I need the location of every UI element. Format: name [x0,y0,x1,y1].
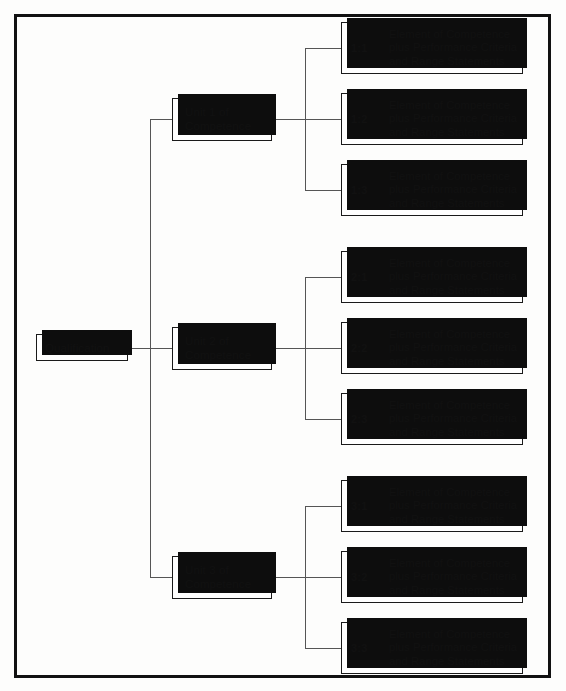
element-node-3-1-line1: Element of Competence [389,486,510,498]
unit-node-1-label-line2: Competence [185,120,271,134]
unit-node-3[interactable]: Unit 3 of Competence [172,556,272,599]
element-node-3-2[interactable]: 3:2 Element of Competence plus Performan… [341,551,523,603]
connector-unit-3-to-element-3-1 [305,506,342,507]
unit-node-3-label-line2: Competence [185,578,271,592]
unit-node-1-label-line1: Unit 1 of [185,106,271,120]
connector-trunk-to-unit-3 [150,577,173,578]
element-node-2-3-line2: plus Performance Criteria [389,412,517,424]
element-node-2-1-text: Element of Competence plus Performance C… [389,257,517,298]
element-node-1-2-line1: Element of Competence [389,99,510,111]
element-node-1-3-line3: and Range Statements [389,197,504,209]
element-node-3-3-text: Element of Competence plus Performance C… [389,628,517,669]
element-node-1-3[interactable]: 1:3 Element of Competence plus Performan… [341,164,523,216]
element-node-3-1-text: Element of Competence plus Performance C… [389,486,517,527]
element-node-2-3-line3: and Range Statements [389,426,504,438]
element-node-1-2-code: 1:2 [351,113,389,125]
element-node-1-1-line3: and Range Statements [389,55,504,67]
element-node-2-1-line3: and Range Statements [389,284,504,296]
element-node-2-2-text: Element of Competence plus Performance C… [389,328,517,369]
element-node-1-1-code: 1:1 [351,42,389,54]
element-node-3-3[interactable]: 3:3 Element of Competence plus Performan… [341,622,523,674]
element-node-2-1-line1: Element of Competence [389,257,510,269]
element-node-3-3-line3: and Range Statements [389,655,504,667]
element-node-2-1-line2: plus Performance Criteria [389,270,517,282]
unit-node-3-label-line1: Unit 3 of [185,564,271,578]
connector-unit-2-to-element-2-2 [305,348,342,349]
element-node-3-2-line2: plus Performance Criteria [389,570,517,582]
connector-unit-3-to-element-3-3 [305,648,342,649]
element-node-1-2-line2: plus Performance Criteria [389,112,517,124]
unit-node-2-label-line1: Unit 2 of [185,335,271,349]
element-node-1-1[interactable]: 1:1 Element of Competence plus Performan… [341,22,523,74]
element-node-2-3-line1: Element of Competence [389,399,510,411]
connector-unit-1-to-element-1-3 [305,190,342,191]
element-node-2-3-code: 2:3 [351,413,389,425]
qualification-node[interactable]: Qualification [36,334,128,361]
element-node-2-3[interactable]: 2:3 Element of Competence plus Performan… [341,393,523,445]
qualification-structure-diagram: Qualification Unit 1 of Competence Unit … [0,0,566,691]
unit-node-1[interactable]: Unit 1 of Competence [172,98,272,141]
element-node-3-1-code: 3:1 [351,500,389,512]
element-node-1-2-line3: and Range Statements [389,126,504,138]
connector-trunk-to-unit-1 [150,119,173,120]
element-node-1-1-line1: Element of Competence [389,28,510,40]
element-node-2-2-line3: and Range Statements [389,355,504,367]
qualification-label: Qualification [45,342,110,354]
element-node-3-2-line1: Element of Competence [389,557,510,569]
element-node-3-1-line2: plus Performance Criteria [389,499,517,511]
connector-unit-3-to-element-3-2 [305,577,342,578]
connector-unit-1-to-element-1-2 [305,119,342,120]
element-node-3-3-code: 3:3 [351,642,389,654]
element-node-1-2[interactable]: 1:2 Element of Competence plus Performan… [341,93,523,145]
connector-trunk-to-unit-2 [150,348,173,349]
connector-unit-2-to-element-2-3 [305,419,342,420]
element-node-3-2-code: 3:2 [351,571,389,583]
connector-unit-1-to-element-1-1 [305,48,342,49]
connector-unit-2-stem [272,348,306,349]
connector-unit-3-stem [272,577,306,578]
element-node-2-1-code: 2:1 [351,271,389,283]
connector-unit-2-to-element-2-1 [305,277,342,278]
element-node-3-2-text: Element of Competence plus Performance C… [389,557,517,598]
element-node-2-2-line1: Element of Competence [389,328,510,340]
element-node-3-3-line1: Element of Competence [389,628,510,640]
element-node-2-2[interactable]: 2:2 Element of Competence plus Performan… [341,322,523,374]
connector-unit-1-stem [272,119,306,120]
element-node-1-3-text: Element of Competence plus Performance C… [389,170,517,211]
unit-node-2[interactable]: Unit 2 of Competence [172,327,272,370]
element-node-3-2-line3: and Range Statements [389,584,504,596]
element-node-1-2-text: Element of Competence plus Performance C… [389,99,517,140]
element-node-1-3-line2: plus Performance Criteria [389,183,517,195]
element-node-2-3-text: Element of Competence plus Performance C… [389,399,517,440]
element-node-2-2-line2: plus Performance Criteria [389,341,517,353]
element-node-1-1-text: Element of Competence plus Performance C… [389,28,517,69]
unit-node-2-label-line2: Competence [185,349,271,363]
element-node-2-1[interactable]: 2:1 Element of Competence plus Performan… [341,251,523,303]
element-node-3-1-line3: and Range Statements [389,513,504,525]
element-node-1-1-line2: plus Performance Criteria [389,41,517,53]
element-node-1-3-line1: Element of Competence [389,170,510,182]
element-node-2-2-code: 2:2 [351,342,389,354]
element-node-3-1[interactable]: 3:1 Element of Competence plus Performan… [341,480,523,532]
element-node-1-3-code: 1:3 [351,184,389,196]
element-node-3-3-line2: plus Performance Criteria [389,641,517,653]
